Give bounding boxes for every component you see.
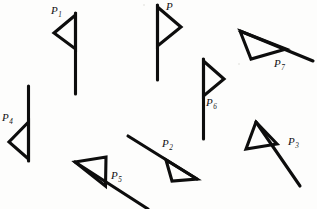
flag-shape-p1 [54, 13, 76, 94]
flag-pennant-p [158, 7, 182, 46]
flags-svg [0, 0, 317, 209]
label-p2: P2 [162, 138, 173, 149]
label-p6: P6 [206, 97, 217, 108]
label-p7: P7 [274, 58, 285, 69]
flag-pennant-p4 [9, 122, 29, 159]
flag-pennant-p6 [204, 61, 225, 96]
flag-shape-p3 [246, 122, 300, 186]
flag-pole-p3 [256, 122, 300, 186]
label-p1: P1 [51, 5, 62, 16]
flag-pennant-p2 [166, 160, 197, 181]
flag-pennant-p3 [246, 122, 277, 149]
vector-flags-figure: P P1 P2 P3 P4 P5 P6 P7 [0, 0, 317, 209]
label-p4: P4 [2, 112, 13, 123]
flag-pennant-p1 [54, 15, 76, 49]
scan-speck [238, 63, 240, 65]
scan-speck [237, 30, 239, 31]
flag-shape-p [158, 5, 182, 80]
label-p3: P3 [288, 136, 299, 147]
flag-pennant-p7 [240, 31, 286, 59]
flag-shape-p5 [75, 157, 148, 209]
label-p: P [166, 1, 173, 12]
scan-speck [143, 4, 145, 6]
label-p5: P5 [111, 170, 122, 181]
